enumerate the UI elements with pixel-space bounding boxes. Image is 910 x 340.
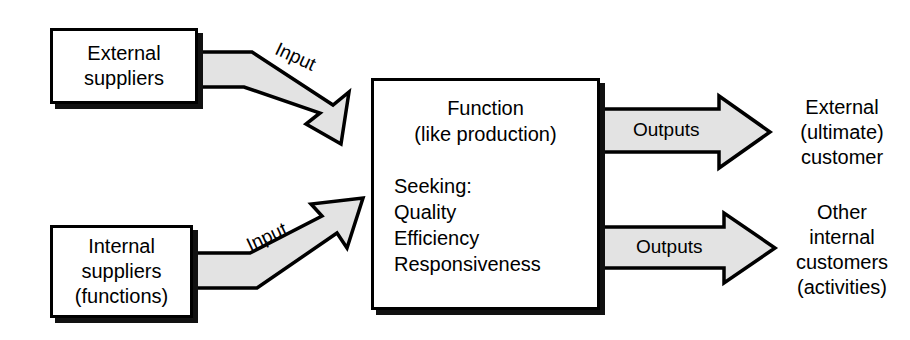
input-arrow-top-shape	[196, 52, 349, 144]
internal-suppliers-label: Internal suppliers (functions)	[75, 234, 168, 309]
external-suppliers-label: External suppliers	[84, 41, 164, 91]
function-box: Function (like production) Seeking: Qual…	[371, 78, 600, 310]
function-heading: Function (like production)	[414, 95, 556, 147]
seeking-item-efficiency: Efficiency	[394, 225, 541, 251]
external-customer-label: External (ultimate) customer	[778, 95, 906, 170]
process-flow-diagram: External suppliers Internal suppliers (f…	[0, 0, 910, 340]
external-suppliers-box: External suppliers	[50, 28, 198, 104]
seeking-label: Seeking:	[394, 173, 541, 199]
other-internal-customers-label: Other internal customers (activities)	[778, 200, 906, 300]
output-arrow-bottom-label: Outputs	[636, 236, 703, 258]
internal-suppliers-box: Internal suppliers (functions)	[50, 225, 193, 318]
seeking-item-responsiveness: Responsiveness	[394, 251, 541, 277]
seeking-item-quality: Quality	[394, 199, 541, 225]
output-arrow-top-label: Outputs	[633, 119, 700, 141]
seeking-block: Seeking: Quality Efficiency Responsivene…	[390, 173, 541, 277]
